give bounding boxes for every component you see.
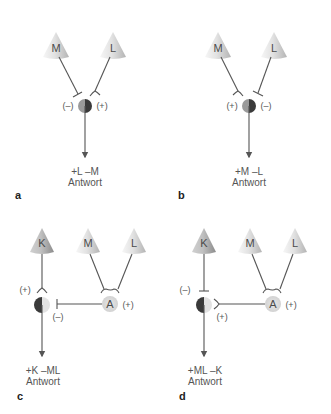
inhibitory-connection	[59, 57, 78, 94]
cone-m: M	[76, 228, 100, 254]
cone-m: M	[238, 228, 262, 254]
panel-d: K M L (–) A (+) (+) +ML –K Antwort d	[179, 228, 307, 402]
cone-k: K	[192, 228, 216, 254]
response-caption: Antwort	[26, 376, 60, 387]
sign-left: (–)	[63, 101, 74, 111]
excitatory-synapse-icon	[101, 289, 119, 293]
cone-label: M	[83, 237, 92, 249]
panel-c: K M L (+) A (+) (–) +K –ML Antw	[17, 228, 146, 402]
panel-b: M L (+) (–) +M –L Antwort b	[178, 32, 287, 201]
excitatory-synapse-icon	[214, 299, 219, 309]
cone-label: L	[110, 42, 116, 54]
panel-a: M L (–) (+) +L –M Antwort a	[15, 32, 126, 201]
response-label: +K –ML	[26, 365, 61, 376]
amacrine-label: A	[269, 298, 277, 310]
panel-letter: c	[17, 390, 23, 402]
cone-label: K	[38, 237, 46, 249]
cone-k: K	[30, 228, 54, 254]
cone-label: L	[271, 42, 277, 54]
excitatory-connection	[90, 254, 104, 289]
sign-a-input: (+)	[216, 312, 227, 322]
sign-left: (+)	[226, 101, 237, 111]
response-caption: Antwort	[188, 376, 222, 387]
response-label: +M –L	[235, 166, 264, 177]
panel-letter: d	[179, 390, 186, 402]
excitatory-connection	[280, 254, 293, 289]
excitatory-synapse-icon	[90, 91, 100, 96]
cone-label: M	[245, 237, 254, 249]
panel-letter: b	[178, 189, 185, 201]
cone-l: L	[283, 228, 307, 254]
response-caption: Antwort	[232, 177, 266, 188]
cone-m: M	[205, 32, 231, 59]
cone-label: K	[200, 237, 208, 249]
cone-m: M	[43, 32, 69, 59]
cone-label: M	[213, 42, 222, 54]
excitatory-synapse-icon	[263, 289, 281, 293]
sign-a-input: (–)	[53, 312, 64, 322]
excitatory-connection	[95, 57, 110, 91]
response-label: +L –M	[71, 166, 99, 177]
panel-letter: a	[15, 189, 22, 201]
amacrine-label: A	[106, 298, 114, 310]
excitatory-connection	[252, 254, 266, 289]
response-caption: Antwort	[68, 177, 102, 188]
excitatory-synapse-icon	[37, 288, 47, 293]
sign-k-input: (–)	[180, 285, 191, 295]
sign-a-output: (+)	[122, 300, 133, 310]
cone-label: L	[292, 237, 298, 249]
sign-right: (–)	[261, 101, 272, 111]
inhibitory-connection	[258, 57, 271, 93]
sign-right: (+)	[96, 101, 107, 111]
cone-label: L	[131, 237, 137, 249]
sign-k-input: (+)	[19, 285, 30, 295]
cone-l: L	[261, 32, 287, 59]
cone-l: L	[100, 32, 126, 59]
sign-a-output: (+)	[285, 300, 296, 310]
cone-label: M	[51, 42, 60, 54]
cone-l: L	[122, 228, 146, 254]
excitatory-connection	[221, 57, 238, 91]
excitatory-synapse-icon	[233, 91, 243, 96]
excitatory-connection	[118, 254, 132, 289]
response-label: +ML –K	[188, 365, 223, 376]
color-opponent-diagram: M L (–) (+) +L –M Antwort a M L	[0, 0, 331, 414]
